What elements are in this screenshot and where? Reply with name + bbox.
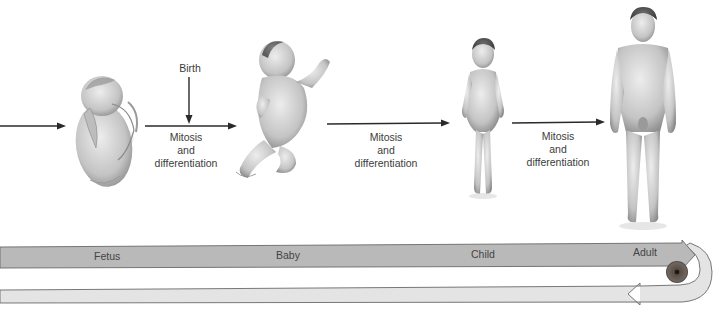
adult-illustration	[610, 7, 676, 230]
stage-label-child: Child	[471, 248, 495, 260]
transition-label-3: Mitosis and differentiation	[510, 130, 606, 169]
arrow-child-to-adult	[512, 119, 605, 126]
baby-illustration	[236, 41, 330, 178]
transition-2-line1: Mitosis	[336, 131, 436, 144]
stage-label-adult: Adult	[633, 246, 657, 258]
birth-label: Birth	[172, 62, 208, 75]
arrow-baby-to-child	[327, 120, 450, 127]
stage-label-fetus: Fetus	[94, 250, 120, 262]
transition-1-line1: Mitosis	[138, 131, 234, 144]
stage-label-baby: Baby	[276, 249, 300, 261]
child-illustration	[462, 38, 504, 199]
transition-3-line2: and	[510, 143, 606, 156]
transition-1-line2: and	[138, 144, 234, 157]
transition-2-line2: and	[336, 144, 436, 157]
arrow-to-fetus	[0, 123, 66, 130]
transition-2-line3: differentiation	[336, 157, 436, 170]
fetus-illustration	[70, 76, 137, 190]
arrow-fetus-to-baby	[145, 123, 237, 130]
birth-arrow	[186, 77, 193, 124]
transition-3-line1: Mitosis	[510, 130, 606, 143]
transition-3-line3: differentiation	[510, 156, 606, 169]
transition-1-line3: differentiation	[138, 157, 234, 170]
transition-label-2: Mitosis and differentiation	[336, 131, 436, 170]
transition-label-1: Mitosis and differentiation	[138, 131, 234, 170]
